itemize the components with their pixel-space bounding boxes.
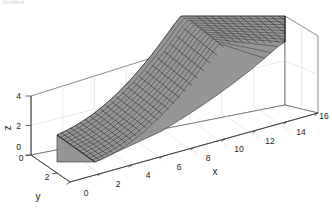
x-tick-7: 14 [296,127,306,137]
x-tick-1: 2 [116,179,121,189]
x-tick-4: 8 [206,153,211,163]
z-tick-2: 4 [16,91,21,101]
x-tick-6: 12 [265,136,275,146]
z-axis-label: z [2,126,13,131]
x-tick-5: 10 [234,144,244,154]
x-tick-0: 0 [84,188,89,198]
x-axis-label: x [213,166,218,177]
z-axis-ticks [26,96,32,155]
z-tick-1: 2 [16,121,21,131]
x-tick-3: 6 [177,162,182,172]
surface-plot-svg: 0 2 4 6 8 10 12 14 16 0 2 0 2 4 [0,0,332,211]
x-tick-2: 4 [146,170,151,180]
y-axis-label: y [36,191,41,202]
y-tick-1: 2 [45,172,50,182]
figure-canvas: Untitled [0,0,332,211]
x-tick-8: 16 [319,111,329,121]
z-axis-tick-labels: 0 2 4 [16,91,21,152]
y-tick-0: 0 [19,153,24,163]
z-tick-0: 0 [16,142,21,152]
